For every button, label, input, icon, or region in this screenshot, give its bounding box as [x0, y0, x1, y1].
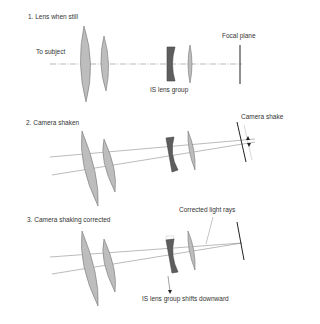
panel-3-title: 3. Camera shaking corrected [27, 217, 110, 224]
ray-1 [50, 243, 242, 257]
panel-2-shaken [50, 122, 255, 206]
is-lens [166, 239, 178, 273]
panel-1-still [50, 26, 242, 102]
focal-plane-line [237, 222, 244, 260]
is-group-label: IS lens group [150, 87, 188, 94]
ray-1 [50, 139, 255, 157]
rear-lens [188, 231, 195, 270]
front-lens-2 [103, 139, 116, 192]
camera-shake-label: Camera shake [241, 114, 283, 121]
front-lens-1 [81, 131, 98, 206]
focal-plane-label: Focal plane [222, 33, 256, 40]
rear-lens [188, 45, 192, 83]
corrected-rays-label: Corrected light rays [179, 207, 235, 214]
front-lens-2 [101, 36, 109, 91]
rear-lens [188, 131, 195, 170]
shake-arrow-up [247, 143, 251, 147]
subject-label: To subject [36, 49, 65, 56]
is-lens [166, 137, 178, 172]
panel-1-title: 1. Lens when still [28, 14, 78, 21]
corrected-leader [206, 217, 213, 244]
panel-2-title: 2. Camera shaken [26, 120, 79, 127]
shift-arrow-icon [168, 290, 172, 294]
front-lens-1 [80, 26, 90, 102]
front-lens-2 [103, 239, 116, 292]
panel-3-corrected [50, 217, 244, 306]
shift-label: IS lens group shifts downward [142, 296, 229, 303]
ray-2 [52, 243, 242, 274]
front-lens-1 [81, 231, 98, 306]
